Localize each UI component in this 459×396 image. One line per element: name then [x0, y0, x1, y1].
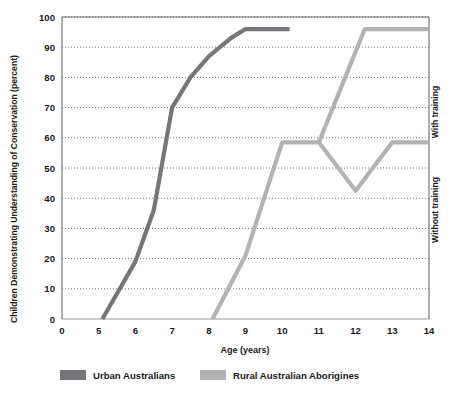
- conservation-understanding-line-chart: Children Demonstrating Understanding of …: [0, 0, 459, 396]
- x-tick-label: 6: [133, 325, 138, 336]
- legend-swatch-rural: [200, 370, 226, 380]
- chart-legend: Urban Australians Rural Australian Abori…: [60, 370, 359, 381]
- x-tick-label: 13: [387, 325, 398, 336]
- x-tick-label: 14: [424, 325, 435, 336]
- y-tick-label: 80: [44, 72, 55, 83]
- y-tick-label: 20: [44, 253, 55, 264]
- annotation-without-training: Without training: [430, 177, 440, 243]
- chart-container: Children Demonstrating Understanding of …: [0, 0, 459, 396]
- y-tick-label: 40: [44, 193, 55, 204]
- x-axis-title: Age (years): [220, 345, 269, 355]
- y-tick-label: 70: [44, 102, 55, 113]
- x-tick-label: 7: [169, 325, 174, 336]
- x-tick-label: 5: [96, 325, 102, 336]
- y-tick-label: 50: [44, 163, 55, 174]
- y-tick-label: 90: [44, 42, 55, 53]
- legend-label-rural: Rural Australian Aborigines: [233, 370, 359, 381]
- legend-label-urban: Urban Australians: [93, 370, 175, 381]
- x-tick-label: 0: [59, 325, 64, 336]
- x-tick-label: 8: [206, 325, 212, 336]
- y-tick-label: 0: [50, 314, 55, 325]
- y-tick-label: 100: [39, 12, 55, 23]
- x-tick-label: 10: [277, 325, 288, 336]
- y-tick-label: 10: [44, 283, 55, 294]
- y-tick-label: 30: [44, 223, 55, 234]
- legend-swatch-urban: [60, 370, 86, 380]
- x-tick-label: 12: [350, 325, 361, 336]
- x-tick-label: 9: [243, 325, 248, 336]
- annotation-with-training: With training: [430, 86, 440, 138]
- y-axis-title: Children Demonstrating Understanding of …: [9, 55, 19, 323]
- x-tick-label: 11: [314, 325, 325, 336]
- y-tick-label: 60: [44, 132, 55, 143]
